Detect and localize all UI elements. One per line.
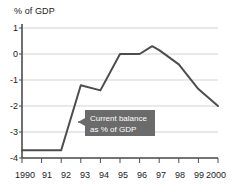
plot-area	[0, 0, 231, 186]
gridlines	[22, 28, 218, 158]
callout-line-2: as % of GDP	[90, 124, 151, 135]
chart-container: % of GDP 1 0 -1 -2 -3 -4 1990 91 92 93 9…	[0, 0, 231, 186]
callout-line-1: Current balance	[90, 114, 147, 123]
current-balance-callout: Current balance as % of GDP	[85, 110, 155, 136]
